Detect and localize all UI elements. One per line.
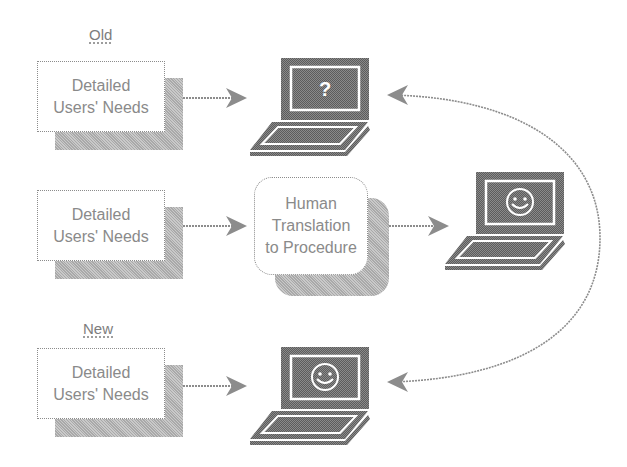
box-line2: Users' Needs: [53, 384, 149, 406]
human-translation-box: Human Translation to Procedure: [254, 177, 368, 275]
laptop-new: [250, 347, 370, 445]
translation-line3: to Procedure: [265, 237, 357, 259]
users-needs-box-old: Detailed Users' Needs: [37, 61, 165, 132]
laptop-middle: [445, 172, 565, 270]
translation-line1: Human: [285, 193, 337, 215]
question-mark-icon: ?: [319, 78, 331, 100]
box-line2: Users' Needs: [53, 97, 149, 119]
users-needs-box-new: Detailed Users' Needs: [37, 348, 165, 419]
box-line2: Users' Needs: [53, 226, 149, 248]
users-needs-box-middle: Detailed Users' Needs: [37, 190, 165, 261]
box-line1: Detailed: [72, 362, 131, 384]
users-needs-diagram: ?: [0, 0, 627, 467]
new-section-label: New: [83, 320, 113, 337]
box-line1: Detailed: [72, 204, 131, 226]
box-line1: Detailed: [72, 75, 131, 97]
old-section-label: Old: [89, 26, 112, 43]
translation-line2: Translation: [272, 215, 351, 237]
laptop-old: ?: [250, 58, 370, 156]
